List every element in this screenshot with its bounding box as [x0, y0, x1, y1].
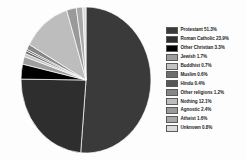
- legend-color-swatch: [166, 116, 178, 123]
- legend-color-swatch: [166, 71, 178, 78]
- legend-label: Unknown 0.8%: [181, 124, 213, 133]
- legend-color-swatch: [166, 80, 178, 87]
- legend-label: Muslim 0.6%: [181, 71, 208, 80]
- legend-label: Agnostic 2.4%: [181, 106, 212, 115]
- pie-slice-group: [21, 7, 151, 153]
- legend-item: Buddhist 0.7%: [166, 62, 246, 71]
- legend-label: Hindu 0.4%: [181, 80, 205, 89]
- legend-color-swatch: [166, 63, 178, 70]
- legend-label: Roman Catholic 23.9%: [181, 35, 229, 44]
- legend-color-swatch: [166, 36, 178, 43]
- pie-chart-plot-area: [20, 6, 152, 154]
- legend-color-swatch: [166, 89, 178, 96]
- legend-color-swatch: [166, 98, 178, 105]
- legend-item: Atheist 1.6%: [166, 115, 246, 124]
- legend-color-swatch: [166, 27, 178, 34]
- legend-label: Nothing 12.1%: [181, 98, 212, 107]
- legend-label: Other Christian 3.3%: [181, 44, 225, 53]
- legend-color-swatch: [166, 107, 178, 114]
- legend-item: Jewish 1.7%: [166, 53, 246, 62]
- legend-color-swatch: [166, 54, 178, 61]
- legend-item: Roman Catholic 23.9%: [166, 35, 246, 44]
- legend-item: Nothing 12.1%: [166, 98, 246, 107]
- legend-item: Agnostic 2.4%: [166, 106, 246, 115]
- legend-item: Protestant 51.3%: [166, 26, 246, 35]
- legend-label: Other religions 1.2%: [181, 89, 224, 98]
- pie-slice: [81, 7, 151, 153]
- legend-label: Atheist 1.6%: [181, 115, 208, 124]
- legend-label: Protestant 51.3%: [181, 26, 217, 35]
- legend-item: Muslim 0.6%: [166, 71, 246, 80]
- pie-chart-svg: [20, 6, 152, 154]
- pie-slice: [21, 79, 86, 153]
- legend-item: Other Christian 3.3%: [166, 44, 246, 53]
- chart-legend: Protestant 51.3%Roman Catholic 23.9%Othe…: [166, 26, 246, 133]
- legend-label: Buddhist 0.7%: [181, 62, 212, 71]
- legend-item: Other religions 1.2%: [166, 89, 246, 98]
- legend-color-swatch: [166, 45, 178, 52]
- legend-label: Jewish 1.7%: [181, 53, 208, 62]
- pie-chart-figure: Protestant 51.3%Roman Catholic 23.9%Othe…: [0, 0, 247, 160]
- legend-item: Unknown 0.8%: [166, 124, 246, 133]
- legend-item: Hindu 0.4%: [166, 80, 246, 89]
- legend-color-swatch: [166, 125, 178, 132]
